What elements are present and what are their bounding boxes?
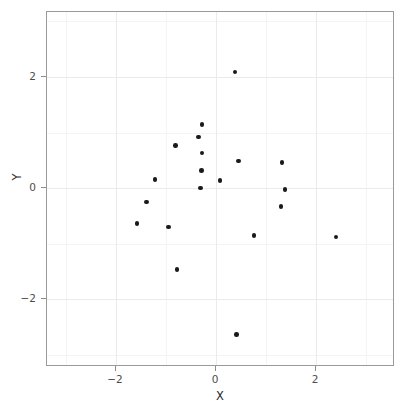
data-point <box>153 177 158 182</box>
data-point <box>200 122 205 127</box>
data-point <box>198 186 203 191</box>
gridline-minor-horizontal <box>47 244 393 245</box>
x-axis-tick <box>315 366 316 371</box>
gridline-major-vertical <box>316 12 317 365</box>
gridline-major-horizontal <box>47 77 393 78</box>
data-point <box>199 168 204 173</box>
gridline-minor-horizontal <box>47 355 393 356</box>
y-axis-title: Y <box>10 147 24 207</box>
data-point <box>252 233 257 238</box>
scatter-plot-figure: −202 −202 X Y <box>0 0 410 409</box>
data-point <box>334 235 339 240</box>
chart-title <box>46 0 394 5</box>
y-axis-tick-label: 2 <box>29 71 36 82</box>
x-axis-tick-label: 0 <box>212 374 219 385</box>
data-point <box>218 178 223 183</box>
x-axis-tick-label: −2 <box>107 374 122 385</box>
data-point <box>196 135 201 140</box>
y-axis-tick <box>41 187 46 188</box>
y-axis-tick <box>41 76 46 77</box>
gridline-major-horizontal <box>47 299 393 300</box>
data-point <box>233 70 238 75</box>
data-point <box>200 151 205 156</box>
data-point <box>234 332 239 337</box>
data-point <box>173 143 178 148</box>
y-axis-tick <box>41 298 46 299</box>
data-point <box>283 187 288 192</box>
gridline-major-horizontal <box>47 188 393 189</box>
y-axis-tick-label: 0 <box>29 182 36 193</box>
gridline-major-vertical <box>116 12 117 365</box>
data-point <box>280 160 285 165</box>
gridline-minor-horizontal <box>47 133 393 134</box>
x-axis-title: X <box>46 389 394 403</box>
data-point <box>166 225 171 230</box>
gridline-major-vertical <box>216 12 217 365</box>
x-axis-tick <box>115 366 116 371</box>
data-point <box>175 267 180 272</box>
plot-panel <box>46 11 394 366</box>
x-axis-tick <box>215 366 216 371</box>
data-point <box>236 159 241 164</box>
y-axis-tick-label: −2 <box>21 293 36 304</box>
data-point <box>279 204 284 209</box>
x-axis-tick-label: 2 <box>312 374 319 385</box>
data-point <box>144 200 149 205</box>
gridline-minor-horizontal <box>47 21 393 22</box>
data-point <box>135 221 140 226</box>
